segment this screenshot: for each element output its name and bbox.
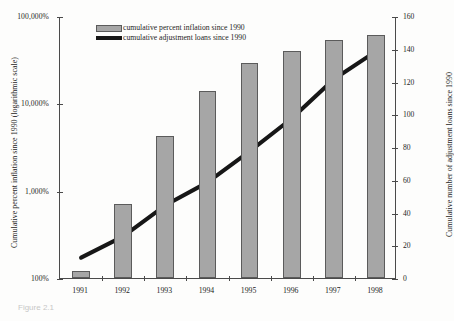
- x-tick-mark: [186, 276, 187, 281]
- line-series-loans: [60, 17, 397, 279]
- right-tick-label-80: 80: [403, 143, 411, 152]
- bar-1997: [325, 40, 343, 278]
- x-axis-label-1992: 1992: [99, 286, 145, 295]
- right-tick-label-20: 20: [403, 241, 411, 250]
- right-tick-mark: [392, 50, 398, 51]
- left-tick-mark: [57, 104, 63, 105]
- left-tick-mark: [57, 279, 63, 280]
- x-axis-label-1993: 1993: [141, 286, 187, 295]
- x-axis-label-1998: 1998: [352, 286, 398, 295]
- bar-1995: [241, 63, 259, 278]
- bar-1994: [199, 91, 217, 278]
- right-tick-label-100: 100: [403, 110, 414, 119]
- bar-1993: [156, 136, 174, 278]
- left-tick-label-10000: 10,000%: [21, 99, 49, 108]
- right-tick-mark: [392, 148, 398, 149]
- left-tick-label-100: 100%: [31, 274, 49, 283]
- left-tick-label-100000: 100,000%: [17, 12, 49, 21]
- bar-1991: [72, 271, 90, 278]
- right-tick-mark: [392, 214, 398, 215]
- x-tick-mark: [229, 276, 230, 281]
- left-tick-mark: [57, 192, 63, 193]
- x-axis-label-1994: 1994: [183, 286, 229, 295]
- right-tick-label-60: 60: [403, 176, 411, 185]
- x-tick-mark: [271, 276, 272, 281]
- left-tick-label-1000: 1,000%: [25, 187, 49, 196]
- right-tick-label-0: 0: [403, 274, 407, 283]
- x-axis-label-1996: 1996: [268, 286, 314, 295]
- right-tick-mark: [392, 83, 398, 84]
- right-tick-mark: [392, 181, 398, 182]
- bar-1996: [283, 51, 301, 278]
- figure-caption: Figure 2.1: [18, 303, 54, 312]
- right-tick-label-40: 40: [403, 209, 411, 218]
- right-tick-label-120: 120: [403, 78, 414, 87]
- left-tick-mark: [57, 17, 63, 18]
- x-axis-label-1991: 1991: [57, 286, 103, 295]
- x-axis-label-1997: 1997: [310, 286, 356, 295]
- bar-1992: [114, 204, 132, 278]
- x-tick-mark: [355, 276, 356, 281]
- right-tick-mark: [392, 246, 398, 247]
- x-tick-mark: [313, 276, 314, 281]
- left-axis-title: Cumulative percent inflation since 1990 …: [10, 53, 19, 253]
- right-tick-mark: [392, 17, 398, 18]
- right-axis-title: Cumulative number of adjustment loans si…: [445, 55, 454, 255]
- x-tick-mark: [102, 276, 103, 281]
- right-tick-label-140: 140: [403, 45, 414, 54]
- plot-area: [59, 17, 396, 279]
- bar-1998: [367, 35, 385, 278]
- x-tick-mark: [144, 276, 145, 281]
- right-tick-label-160: 160: [403, 12, 414, 21]
- right-tick-mark: [392, 115, 398, 116]
- right-tick-mark: [392, 279, 398, 280]
- x-axis-label-1995: 1995: [226, 286, 272, 295]
